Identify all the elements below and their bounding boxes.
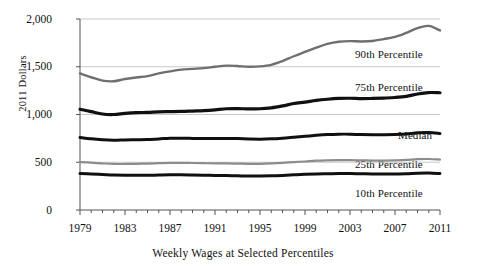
series-lines: [80, 26, 440, 176]
wage-percentiles-chart: 2011 Dollars 2,000 1,500 1,000 500 0 197…: [0, 0, 486, 275]
tick-marks: [76, 19, 440, 215]
plot-area: [0, 0, 486, 275]
series-line-90th-percentile: [80, 26, 440, 82]
series-line-75th-percentile: [80, 92, 440, 114]
series-line-median: [80, 132, 440, 140]
series-line-10th-percentile: [80, 173, 440, 176]
series-line-25th-percentile: [80, 159, 440, 164]
